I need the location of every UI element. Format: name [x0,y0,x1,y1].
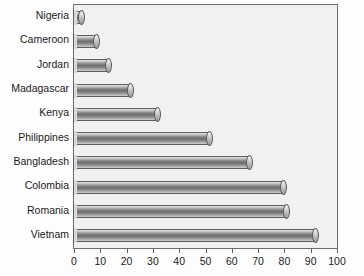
bar-end-cap [246,155,253,170]
bar-end-cap [78,10,85,25]
bar-body [74,156,250,169]
x-tick-label: 40 [173,255,185,267]
x-tick [127,249,128,253]
x-tick-label: 80 [279,255,291,267]
bar-end-cap [93,34,100,49]
x-tick-label: 20 [121,255,133,267]
category-label: Romania [0,205,69,216]
x-tick [284,249,285,253]
bar-romania [74,205,290,218]
x-tick [258,249,259,253]
x-tick [206,249,207,253]
x-tick-label: 30 [147,255,159,267]
bar-body [74,181,284,194]
x-tick [311,249,312,253]
x-tick [179,249,180,253]
category-label: Nigeria [0,10,69,21]
bar-end-cap [312,228,319,243]
bar-start-cap [73,180,77,195]
x-tick-label: 60 [226,255,238,267]
bar-vietnam [74,229,319,242]
bar-start-cap [73,58,77,73]
bar-start-cap [73,155,77,170]
bar-body [74,229,316,242]
bar-nigeria [74,11,85,24]
bar-madagascar [74,84,134,97]
bars-layer [74,5,337,248]
x-axis-ticks [73,249,338,254]
bar-end-cap [280,180,287,195]
bar-philippines [74,132,213,145]
bar-body [74,59,109,72]
bar-colombia [74,181,287,194]
bar-end-cap [206,131,213,146]
bar-end-cap [127,83,134,98]
category-label: Kenya [0,107,69,118]
x-tick-label: 100 [328,255,346,267]
category-label: Vietnam [0,229,69,240]
x-tick [232,249,233,253]
x-axis-tick-labels: 0102030405060708090100 [0,255,364,271]
x-tick [337,249,338,253]
bar-start-cap [73,10,77,25]
bar-jordan [74,59,112,72]
bar-chart: NigeriaCameroonJordanMadagascarKenyaPhil… [0,0,364,276]
bar-kenya [74,108,161,121]
y-axis-category-labels: NigeriaCameroonJordanMadagascarKenyaPhil… [0,4,69,249]
x-tick [74,249,75,253]
category-label: Bangladesh [0,156,69,167]
bar-start-cap [73,107,77,122]
bar-start-cap [73,34,77,49]
x-tick-label: 10 [94,255,106,267]
category-label: Cameroon [0,34,69,45]
bar-start-cap [73,204,77,219]
x-tick-label: 90 [305,255,317,267]
category-label: Philippines [0,132,69,143]
category-label: Colombia [0,180,69,191]
bar-start-cap [73,83,77,98]
x-tick [153,249,154,253]
bar-bangladesh [74,156,253,169]
x-tick-label: 0 [71,255,77,267]
bar-end-cap [283,204,290,219]
bar-start-cap [73,228,77,243]
bar-body [74,205,287,218]
bar-body [74,84,131,97]
bar-start-cap [73,131,77,146]
category-label: Madagascar [0,83,69,94]
bar-end-cap [105,58,112,73]
category-label: Jordan [0,59,69,70]
bar-body [74,132,210,145]
bar-end-cap [154,107,161,122]
bar-cameroon [74,35,100,48]
x-tick-label: 50 [200,255,212,267]
x-tick [100,249,101,253]
x-tick-label: 70 [252,255,264,267]
bar-body [74,108,158,121]
